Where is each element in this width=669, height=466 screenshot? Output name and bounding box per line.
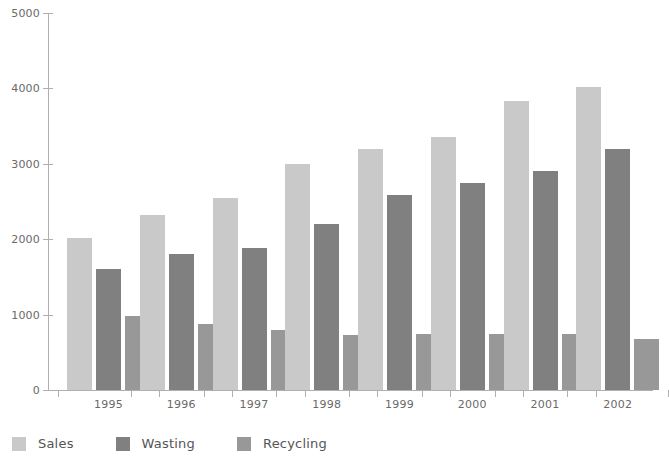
bar[interactable] (533, 171, 558, 390)
x-axis-tick (305, 390, 306, 397)
x-axis-tick (422, 390, 423, 397)
bar[interactable] (358, 149, 383, 390)
x-axis-tick (567, 390, 568, 397)
x-axis-tick (58, 390, 59, 397)
bar[interactable] (213, 198, 238, 390)
bar[interactable] (387, 195, 412, 390)
chart-legend: SalesWastingRecycling (12, 437, 369, 451)
legend-swatch-icon (12, 437, 26, 451)
x-axis-group-label: 2002 (566, 399, 669, 411)
legend-item[interactable]: Sales (12, 437, 74, 451)
legend-item[interactable]: Wasting (116, 437, 195, 451)
bar[interactable] (169, 254, 194, 390)
x-axis-tick (349, 390, 350, 397)
x-axis-line (48, 390, 653, 391)
bar[interactable] (634, 339, 659, 390)
bar[interactable] (140, 215, 165, 390)
x-axis-tick (596, 390, 597, 397)
x-axis-tick (450, 390, 451, 397)
x-axis-tick (523, 390, 524, 397)
bar[interactable] (431, 137, 456, 390)
x-axis-tick (131, 390, 132, 397)
bar[interactable] (314, 224, 339, 390)
x-axis-tick (276, 390, 277, 397)
legend-label: Recycling (263, 437, 327, 451)
plot-area: 010002000300040005000 199519961997199819… (0, 0, 653, 400)
x-axis-tick (159, 390, 160, 397)
x-axis-tick (232, 390, 233, 397)
bar[interactable] (605, 149, 630, 390)
x-axis-tick (495, 390, 496, 397)
bar[interactable] (242, 248, 267, 390)
legend-label: Sales (38, 437, 74, 451)
x-axis-tick (377, 390, 378, 397)
legend-item[interactable]: Recycling (237, 437, 327, 451)
bar[interactable] (504, 101, 529, 390)
bar[interactable] (285, 164, 310, 390)
x-axis-tick (204, 390, 205, 397)
y-axis-tick (43, 390, 53, 391)
legend-label: Wasting (142, 437, 195, 451)
bar[interactable] (576, 87, 601, 390)
bar[interactable] (67, 238, 92, 390)
legend-swatch-icon (237, 437, 251, 451)
bar[interactable] (96, 269, 121, 390)
legend-swatch-icon (116, 437, 130, 451)
bar[interactable] (460, 183, 485, 390)
bars-layer (0, 0, 653, 390)
